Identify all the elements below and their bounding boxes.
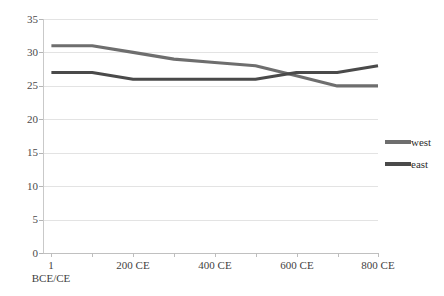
y-tick-30 <box>39 52 43 53</box>
y-tick-label-25: 25 <box>4 80 38 91</box>
y-axis <box>43 19 44 253</box>
x-tick-label-200-main: 200 CE <box>116 259 149 271</box>
legend-item-west[interactable]: west <box>385 131 443 153</box>
legend-swatch-west-icon <box>385 140 411 144</box>
series-lines <box>43 19 378 253</box>
y-tick-0 <box>39 253 43 254</box>
x-tick-label-1-main: 1 <box>48 259 54 271</box>
x-axis <box>43 253 379 254</box>
legend-label-east: east <box>411 159 428 170</box>
y-tick-label-5: 5 <box>4 214 38 225</box>
chart-legend: west east <box>385 131 443 175</box>
x-tick-label-800-main: 800 CE <box>361 259 394 271</box>
x-tick-label-800: 800 CE <box>348 259 408 272</box>
y-tick-15 <box>39 153 43 154</box>
x-tick-200 <box>133 253 134 257</box>
y-tick-20 <box>39 119 43 120</box>
y-tick-label-10: 10 <box>4 181 38 192</box>
line-chart: 35 30 25 20 15 10 5 0 1 BCE/CE 200 CE 40… <box>0 0 444 296</box>
y-axis-labels: 35 30 25 20 15 10 5 0 <box>0 0 38 296</box>
x-tick-800 <box>378 253 379 257</box>
legend-swatch-east-icon <box>385 162 411 166</box>
x-tick-label-1-sub: BCE/CE <box>21 272 81 285</box>
y-tick-label-30: 30 <box>4 47 38 58</box>
y-tick-label-20: 20 <box>4 114 38 125</box>
plot-area <box>43 19 378 253</box>
y-tick-label-15: 15 <box>4 147 38 158</box>
y-tick-5 <box>39 220 43 221</box>
series-line-east <box>51 66 378 79</box>
y-tick-label-35: 35 <box>4 14 38 25</box>
x-tick-400 <box>215 253 216 257</box>
legend-label-west: west <box>411 137 431 148</box>
x-tick-label-1: 1 BCE/CE <box>21 259 81 285</box>
x-tick-label-600-main: 600 CE <box>280 259 313 271</box>
y-tick-25 <box>39 86 43 87</box>
x-tick-500 <box>256 253 257 257</box>
x-tick-1 <box>51 253 52 257</box>
x-tick-label-200: 200 CE <box>103 259 163 272</box>
y-tick-10 <box>39 186 43 187</box>
x-tick-300 <box>174 253 175 257</box>
y-tick-label-0: 0 <box>4 248 38 259</box>
x-tick-100 <box>92 253 93 257</box>
x-tick-label-400-main: 400 CE <box>198 259 231 271</box>
x-tick-600 <box>297 253 298 257</box>
x-tick-label-600: 600 CE <box>267 259 327 272</box>
x-tick-700 <box>338 253 339 257</box>
y-tick-35 <box>39 19 43 20</box>
x-tick-label-400: 400 CE <box>185 259 245 272</box>
legend-item-east[interactable]: east <box>385 153 443 175</box>
